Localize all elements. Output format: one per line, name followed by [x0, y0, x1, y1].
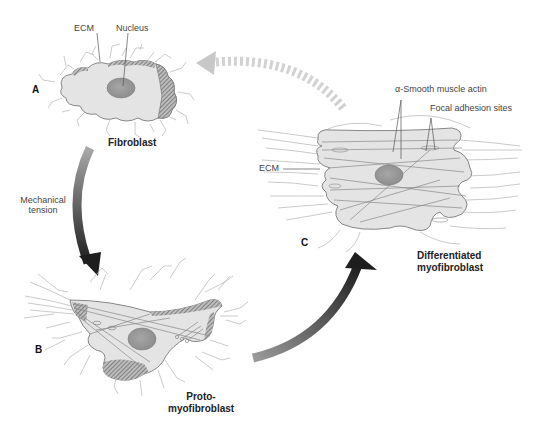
label-mechanical-tension-line2: tension: [17, 206, 69, 216]
panel-letter-c: C: [301, 237, 308, 248]
arrow-a-to-b: [77, 148, 101, 276]
proto-myofibroblast-cell: [24, 258, 248, 396]
differentiated-myofibroblast-cell: [258, 100, 522, 252]
label-differentiated-line1: Differentiated: [417, 250, 483, 262]
label-differentiated-line2: myofibroblast: [417, 262, 483, 274]
diagram-canvas: [0, 0, 547, 430]
arrow-b-to-c: [253, 252, 377, 358]
label-proto-line2: myofibroblast: [168, 403, 234, 415]
panel-letter-b: B: [35, 344, 42, 355]
label-ecm-a: ECM: [74, 24, 94, 34]
fibroblast-cell: [39, 33, 194, 138]
label-ecm-c: ECM: [259, 164, 279, 174]
panel-letter-a: A: [32, 84, 39, 95]
label-mechanical-tension: Mechanical tension: [17, 196, 69, 216]
return-arrow-c-to-a: [196, 51, 343, 108]
label-smooth-muscle-actin: α-Smooth muscle actin: [395, 85, 487, 95]
label-fibroblast: Fibroblast: [108, 137, 156, 149]
label-proto-myofibroblast: Proto- myofibroblast: [168, 391, 234, 414]
label-focal-adhesion: Focal adhesion sites: [430, 104, 512, 114]
label-proto-line1: Proto-: [168, 391, 234, 403]
label-nucleus: Nucleus: [116, 24, 149, 34]
label-differentiated-myofibroblast: Differentiated myofibroblast: [417, 250, 483, 273]
